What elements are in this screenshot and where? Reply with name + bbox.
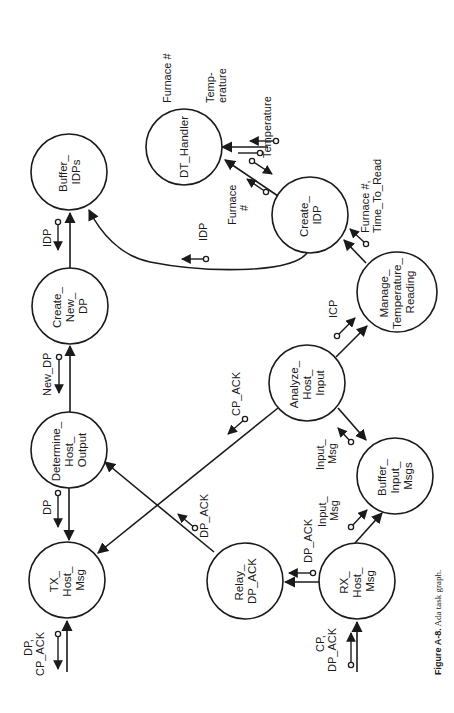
node-analyze-host-input: Analyze_ Host_ Input <box>269 345 345 421</box>
node-rx-host-msg: RX_ Host_ Msg <box>319 543 395 619</box>
edge-analyze-to-buffer-input-msgs <box>338 408 366 440</box>
label-furnace-external: Furnace # <box>161 53 173 103</box>
edge-analyze-to-manage-temp <box>336 326 367 357</box>
edge-manage-temp-to-create-idp <box>344 240 366 263</box>
node-determine-host-output: Determine_ Host_ Output <box>31 412 107 488</box>
flow-arrow-dp-ack-relay <box>178 514 195 528</box>
node-create-new-dp: Create_ New_ DP <box>32 268 108 344</box>
label-temperature-dt: Temperature <box>261 96 273 158</box>
label-input-msg-rx: Input_ Msg <box>316 493 340 527</box>
label-furnace-dt: Furnace # <box>226 182 250 225</box>
flow-arrow-icp <box>337 318 355 336</box>
node-create-idp: Create_ IDP <box>272 177 348 253</box>
node-buffer-idps: Buffer_ IDPs <box>31 134 107 210</box>
node-manage-temperature-reading: Manage_ Temperature_ Reading <box>357 252 437 332</box>
ada-task-graph: Buffer_ IDPs DT_Handler Create_ IDP Mana… <box>0 0 454 713</box>
figure-caption: Figure A-8. Ada task graph. <box>433 570 443 675</box>
flow-arrow-input-msg-rx <box>351 510 367 527</box>
label-icp: ICP <box>327 300 339 318</box>
node-buffer-input-msgs: Buffer_ Input_ Msgs <box>357 438 433 514</box>
node-tx-host-msg: TX_ Host_ Msg <box>29 542 105 618</box>
label-rx-external: CP, DP_ACK <box>314 627 338 672</box>
svg-text:Relay_ DP_ACK: Relay_ DP_ACK <box>233 558 258 604</box>
flow-arrow-cp-ack <box>228 419 245 434</box>
node-dt-handler: DT_Handler <box>146 109 222 185</box>
label-idp-curve: IDP <box>197 223 209 241</box>
svg-text:DT_Handler: DT_Handler <box>178 116 190 178</box>
label-furnace-time-to-read: Furnace #, Time_To_Read <box>359 159 383 233</box>
flow-arrow-temperature-dt <box>252 161 272 174</box>
label-idp-buffer: IDP <box>41 229 53 247</box>
label-temperature-external: Temp- erature <box>204 68 228 103</box>
node-relay-dp-ack: Relay_ DP_ACK <box>207 543 283 619</box>
label-cp-ack: CP_ACK <box>230 371 242 416</box>
label-new-dp: New_DP <box>41 353 53 396</box>
label-dp-to-tx: DP <box>41 500 53 515</box>
label-dp-ack-rx: DP_ACK <box>302 518 314 563</box>
label-tx-external: DP, CP_ACK <box>22 631 46 676</box>
label-dp-ack-relay: DP_ACK <box>198 493 210 538</box>
label-input-msg-analyze: Input_ Msg <box>314 436 338 470</box>
